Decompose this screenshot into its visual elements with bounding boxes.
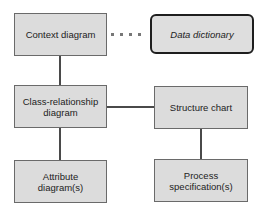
node-context-diagram: Context diagram (14, 13, 107, 56)
dot (120, 33, 123, 36)
node-data-dictionary: Data dictionary (150, 14, 254, 54)
edge-class-to-structure (107, 106, 154, 108)
dot (129, 33, 132, 36)
dot (138, 33, 141, 36)
node-class-relationship-diagram: Class-relationship diagram (14, 85, 107, 128)
edge-structure-to-process (200, 129, 202, 159)
node-label: Class-relationship diagram (19, 96, 102, 118)
node-structure-chart: Structure chart (154, 86, 248, 129)
node-process-specifications: Process specification(s) (154, 159, 248, 202)
node-label: Structure chart (170, 102, 232, 113)
edge-context-to-data-dictionary (111, 33, 141, 36)
node-label: Process specification(s) (166, 170, 236, 192)
node-attribute-diagrams: Attribute diagram(s) (14, 160, 107, 203)
edge-class-to-attribute (59, 128, 61, 160)
node-label: Data dictionary (170, 29, 233, 40)
edge-context-to-class (59, 56, 61, 85)
dot (111, 33, 114, 36)
node-label: Context diagram (26, 29, 96, 40)
node-label: Attribute diagram(s) (31, 171, 91, 193)
